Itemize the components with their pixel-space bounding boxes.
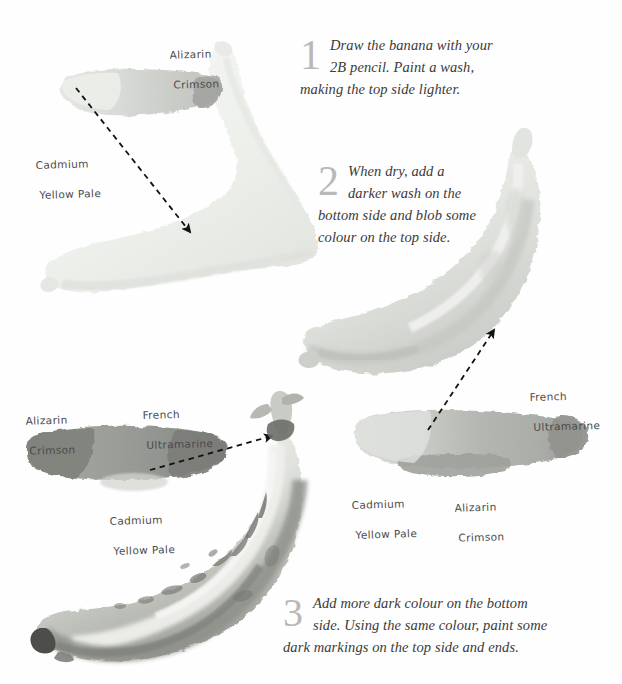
pigment-label-line-1: Alizarin xyxy=(169,46,219,62)
step-1-text: Draw the banana with your 2B pencil. Pai… xyxy=(300,34,540,100)
pigment-label-line-2: Crimson xyxy=(170,76,220,92)
pigment-label-cadmium-yellow-pale: Cadmium Yellow Pale xyxy=(109,497,176,574)
step-3-number: 3 xyxy=(283,592,303,634)
step-2-line-1: When dry, add a xyxy=(318,160,533,182)
step-2-number: 2 xyxy=(318,160,339,202)
pigment-label-line-1: Cadmium xyxy=(351,496,416,513)
pigment-label-line-1: Alizarin xyxy=(25,412,75,428)
watercolour-artwork xyxy=(0,0,622,684)
pigment-label-line-1: French xyxy=(142,406,212,423)
pigment-label-line-2: Yellow Pale xyxy=(352,526,417,543)
step-1-line-3: making the top side lighter. xyxy=(300,78,540,100)
pigment-label-line-1: Cadmium xyxy=(109,512,174,529)
pigment-label-french-ultramarine: French Ultramarine xyxy=(529,373,601,450)
pigment-label-alizarin-crimson: Alizarin Crimson xyxy=(25,397,76,473)
step-3-line-1: Add more dark colour on the bottom xyxy=(283,592,603,614)
pigment-label-line-1: French xyxy=(529,388,599,405)
pigment-label-line-2: Yellow Pale xyxy=(110,542,175,559)
pigment-label-line-1: Alizarin xyxy=(454,499,504,515)
pigment-label-line-2: Crimson xyxy=(26,442,76,458)
pigment-label-line-2: Yellow Pale xyxy=(36,186,101,203)
step-1-instruction: 1 Draw the banana with your 2B pencil. P… xyxy=(300,34,540,100)
step-1-line-2: 2B pencil. Paint a wash, xyxy=(300,56,540,78)
step-3-text: Add more dark colour on the bottom side.… xyxy=(283,592,603,658)
pigment-label-french-ultramarine: French Ultramarine xyxy=(142,391,214,468)
step-3-line-3: dark markings on the top side and ends. xyxy=(283,636,603,658)
step-2-line-2: darker wash on the xyxy=(318,182,533,204)
step-3-line-2: side. Using the same colour, paint some xyxy=(283,614,603,636)
pigment-label-alizarin-crimson: Alizarin Crimson xyxy=(454,484,505,560)
step-2-instruction: 2 When dry, add a darker wash on the bot… xyxy=(318,160,533,248)
step-2-text: When dry, add a darker wash on the botto… xyxy=(318,160,533,248)
pigment-label-line-2: Crimson xyxy=(455,529,505,545)
pigment-label-alizarin-crimson: Alizarin Crimson xyxy=(169,31,220,107)
pigment-label-cadmium-yellow-pale: Cadmium Yellow Pale xyxy=(351,481,418,558)
step-1-line-1: Draw the banana with your xyxy=(300,34,540,56)
step-2-line-3: bottom side and blob some xyxy=(318,204,533,226)
pigment-label-line-2: Ultramarine xyxy=(143,436,213,453)
step-3-instruction: 3 Add more dark colour on the bottom sid… xyxy=(283,592,603,658)
step-2-line-4: colour on the top side. xyxy=(318,226,533,248)
pigment-label-line-1: Cadmium xyxy=(35,156,100,173)
pigment-label-cadmium-yellow-pale: Cadmium Yellow Pale xyxy=(35,141,102,218)
pigment-label-line-2: Ultramarine xyxy=(530,418,600,435)
step-1-number: 1 xyxy=(300,34,321,76)
tutorial-canvas: 1 Draw the banana with your 2B pencil. P… xyxy=(0,0,622,684)
